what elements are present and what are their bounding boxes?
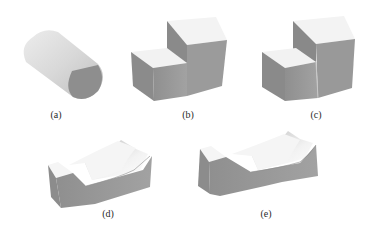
- panel-label-d: (d): [102, 208, 114, 220]
- figure: (a) (b) (c) (d) (e): [0, 0, 377, 236]
- panel-label-e: (e): [260, 208, 271, 220]
- shape-d-saddle-block: [48, 140, 152, 208]
- shape-e-saddle-block: [198, 131, 318, 196]
- panel-label-c: (c): [310, 109, 321, 121]
- panel-label-b: (b): [182, 109, 194, 121]
- shape-b-stepped-block: [131, 17, 227, 101]
- panel-label-a: (a): [50, 109, 61, 121]
- shape-c-stepped-block: [262, 16, 355, 101]
- shape-a-cylinder: [24, 30, 103, 99]
